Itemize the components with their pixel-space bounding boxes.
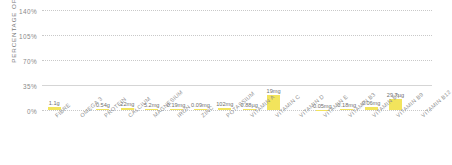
x-label-slot: VITAMIN C — [261, 112, 285, 164]
bar-value-label: 102mg — [216, 101, 233, 107]
x-label-slot: PROTEIN — [91, 112, 115, 164]
x-label-slot: OMEGA 3 — [66, 112, 90, 164]
x-label-slot: FIBRE — [42, 112, 66, 164]
y-axis-tick: 35% — [23, 83, 37, 90]
bar-slot — [66, 10, 90, 110]
bar-slot: 102mg — [213, 10, 237, 110]
bar-slot: 0.09mg — [188, 10, 212, 110]
x-label-slot: MAGNESIUM — [140, 112, 164, 164]
x-label-slot: VITAMIN B12 — [408, 112, 432, 164]
x-label-slot: CALCIUM — [115, 112, 139, 164]
y-axis-tick: 0% — [27, 108, 37, 115]
x-label-slot: VITAMIN B6 — [359, 112, 383, 164]
bar-slot: 0.54g — [91, 10, 115, 110]
x-label-slot: VITAMIN B9 — [383, 112, 407, 164]
x-label-slot: POTASSIUM — [213, 112, 237, 164]
x-axis-labels: FIBREOMEGA 3PROTEINCALCIUMMAGNESIUMIRONZ… — [42, 112, 432, 164]
x-label-slot: VITAMIN E — [310, 112, 334, 164]
y-axis-tick: 105% — [19, 33, 37, 40]
y-axis-tick: 70% — [23, 58, 37, 65]
bar-value-label: 1.1g — [49, 100, 60, 106]
x-label-slot: VITAMIN D — [286, 112, 310, 164]
bar-slot: 5.2mg — [140, 10, 164, 110]
x-label-slot: ZINC — [188, 112, 212, 164]
bar-slot: 1.1g — [42, 10, 66, 110]
y-axis-tick: 140% — [19, 8, 37, 15]
x-label-slot: VITAMIN A — [237, 112, 261, 164]
y-axis-title: PERCENTAGE OF RDA — [10, 0, 17, 70]
x-label-slot: IRON — [164, 112, 188, 164]
bar-value-label: 19mg — [267, 88, 281, 94]
x-label-slot: VITAMIN B3 — [335, 112, 359, 164]
bar-slot: 22mg — [115, 10, 139, 110]
